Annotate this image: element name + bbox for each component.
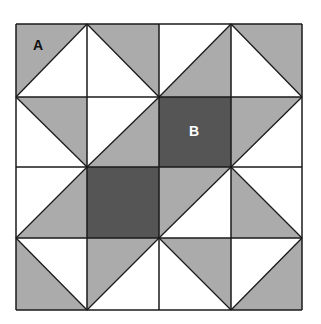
label-a: A [33, 37, 43, 53]
quilt-block-diagram: A B [0, 0, 321, 324]
solid-square [87, 167, 159, 238]
label-b: B [189, 123, 199, 139]
